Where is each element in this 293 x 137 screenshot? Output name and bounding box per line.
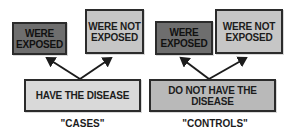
no-disease-label: DO NOT HAVE THE DISEASE	[151, 85, 274, 107]
controls-were-not-exposed-box: WERE NOT EXPOSED	[215, 9, 283, 54]
have-disease-box: HAVE THE DISEASE	[24, 79, 141, 112]
arrow-controls-to-exposed	[181, 58, 209, 79]
controls-were-exposed-label: WERE EXPOSED	[157, 27, 211, 49]
cases-were-not-exposed-box: WERE NOT EXPOSED	[85, 9, 144, 54]
cases-were-exposed-box: WERE EXPOSED	[12, 22, 67, 55]
arrow-cases-to-exposed	[47, 58, 80, 79]
arrow-cases-to-not-exposed	[80, 58, 111, 79]
cases-were-exposed-label: WERE EXPOSED	[14, 28, 65, 50]
controls-group-label: "CONTROLS"	[170, 118, 260, 129]
controls-were-exposed-box: WERE EXPOSED	[155, 21, 213, 55]
cases-group-label: "CASES"	[40, 118, 125, 129]
no-disease-box: DO NOT HAVE THE DISEASE	[149, 79, 276, 112]
cases-were-not-exposed-label: WERE NOT EXPOSED	[87, 21, 142, 43]
arrow-controls-to-not-exposed	[209, 58, 246, 79]
have-disease-label: HAVE THE DISEASE	[36, 90, 129, 101]
controls-were-not-exposed-label: WERE NOT EXPOSED	[217, 21, 281, 43]
